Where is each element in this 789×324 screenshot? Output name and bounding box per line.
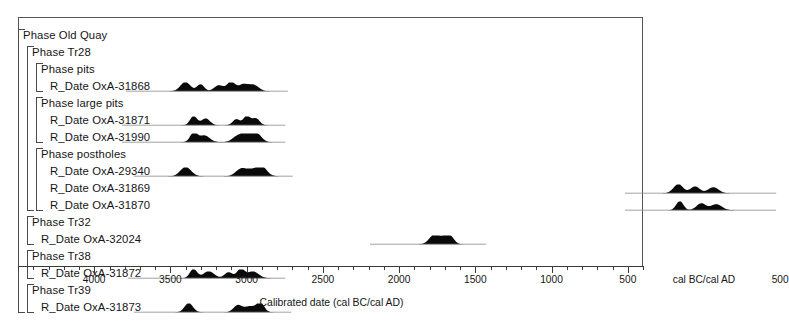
- axis-tick-major: [323, 266, 324, 273]
- probability-distribution: [128, 112, 277, 129]
- axis-tick-minor: [79, 266, 80, 270]
- axis-tick-major: [552, 266, 553, 273]
- axis-tick-minor: [445, 266, 446, 270]
- axis-tick-major: [94, 266, 95, 273]
- axis-tick-minor: [155, 266, 156, 270]
- date-label: R_Date OxA-29340: [50, 163, 150, 180]
- axis-tick-minor: [18, 266, 19, 270]
- axis-tick-label: 500: [772, 274, 789, 285]
- axis-tick-minor: [536, 266, 537, 270]
- axis-tick-minor: [64, 266, 65, 270]
- phase-label: Phase postholes: [41, 146, 126, 163]
- probability-distribution: [132, 78, 280, 95]
- axis-tick-label: 2500: [312, 274, 335, 285]
- axis-tick-minor: [506, 266, 507, 270]
- axis-tick-minor: [414, 266, 415, 270]
- axis-tick-label: 500: [619, 274, 636, 285]
- phase-bracket-foot: [27, 239, 34, 245]
- axis-tick-minor: [338, 266, 339, 270]
- phase-label: Phase pits: [41, 61, 95, 78]
- phase-bracket: [18, 29, 25, 313]
- axis-tick-minor: [140, 266, 141, 270]
- axis-tick-major: [475, 266, 476, 273]
- axis-tick-minor: [430, 266, 431, 270]
- axis-tick-minor: [521, 266, 522, 270]
- axis-tick-minor: [186, 266, 187, 270]
- axis-tick-major: [247, 266, 248, 273]
- phase-label: Phase Tr28: [32, 44, 91, 61]
- axis-tick-minor: [491, 266, 492, 270]
- axis-tick-label: 3000: [235, 274, 258, 285]
- axis-tick-minor: [231, 266, 232, 270]
- axis-tick-minor: [262, 266, 263, 270]
- date-label: R_Date OxA-31869: [50, 180, 150, 197]
- phase-label: Phase Tr32: [32, 214, 91, 231]
- x-axis-title: Calibrated date (cal BC/cal AD): [0, 297, 663, 308]
- axis-tick-minor: [201, 266, 202, 270]
- axis-tick-minor: [125, 266, 126, 270]
- axis-tick-minor: [308, 266, 309, 270]
- phase-label: Phase large pits: [41, 95, 124, 112]
- axis-tick-label: 2000: [388, 274, 411, 285]
- axis-tick-minor: [567, 266, 568, 270]
- axis-tick-label: 1000: [540, 274, 563, 285]
- axis-tick-minor: [33, 266, 34, 270]
- date-label: R_Date OxA-32024: [41, 231, 141, 248]
- axis-tick-label: 4000: [83, 274, 106, 285]
- probability-distribution: [631, 197, 768, 214]
- phase-bracket-foot: [27, 205, 34, 211]
- axis-tick-minor: [369, 266, 370, 270]
- x-axis-line: [18, 266, 643, 267]
- axis-tick-minor: [643, 266, 644, 270]
- date-label: R_Date OxA-31870: [50, 197, 150, 214]
- axis-tick-minor: [277, 266, 278, 270]
- phase-bracket-foot: [27, 273, 34, 279]
- axis-tick-minor: [216, 266, 217, 270]
- probability-distribution: [128, 129, 277, 146]
- phase-bracket-foot: [36, 205, 43, 211]
- axis-tick-label: 1500: [464, 274, 487, 285]
- axis-tick-minor: [353, 266, 354, 270]
- axis-tick-minor: [582, 266, 583, 270]
- axis-tick-minor: [110, 266, 111, 270]
- axis-tick-major: [399, 266, 400, 273]
- phase-bracket: [27, 46, 34, 211]
- probability-distribution: [376, 231, 478, 248]
- axis-tick-minor: [49, 266, 50, 270]
- probability-distribution: [140, 163, 285, 180]
- phase-bracket-foot: [36, 86, 43, 92]
- phase-bracket-foot: [36, 137, 43, 143]
- axis-tick-label: 3500: [159, 274, 182, 285]
- axis-tick-major: [628, 266, 629, 273]
- probability-distribution: [631, 180, 768, 197]
- axis-tick-major: [170, 266, 171, 273]
- axis-tick-minor: [597, 266, 598, 270]
- axis-tick-minor: [384, 266, 385, 270]
- axis-tick-minor: [613, 266, 614, 270]
- axis-tick-minor: [292, 266, 293, 270]
- phase-label: Phase Tr38: [32, 248, 91, 265]
- axis-tick-label: cal BC/cal AD: [673, 274, 735, 285]
- phase-label: Phase Old Quay: [23, 27, 107, 44]
- axis-tick-minor: [460, 266, 461, 270]
